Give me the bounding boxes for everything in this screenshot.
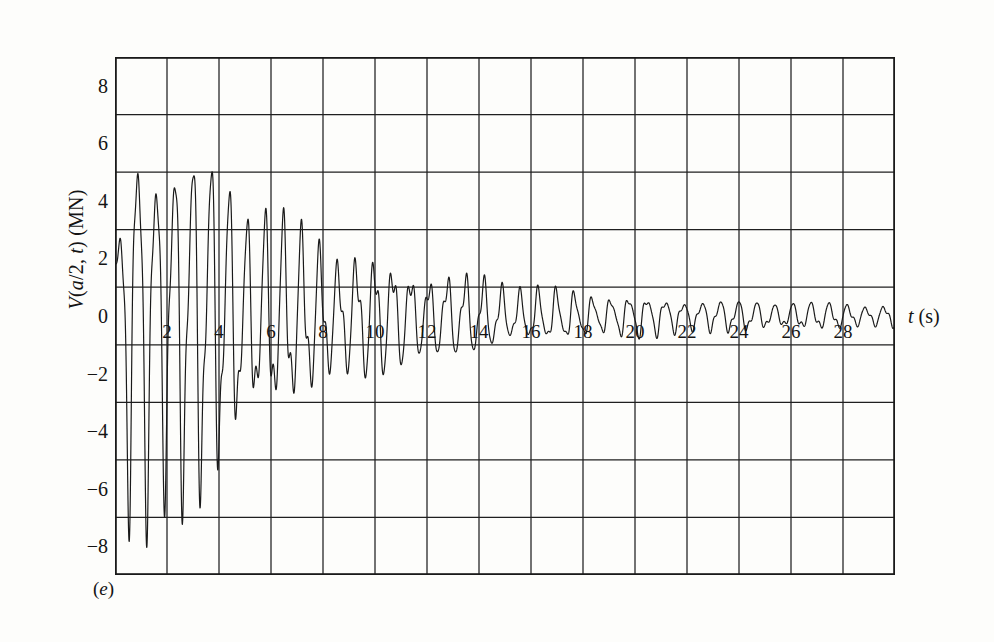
y-axis-title-t: t (65, 248, 87, 254)
y-axis-title-v: V (65, 297, 87, 309)
y-axis-tick-label: −2 (64, 364, 108, 384)
y-axis-title-a: a (65, 280, 87, 290)
figure-caption: (e) (93, 578, 114, 600)
figure-caption-letter: e (99, 578, 107, 599)
plot-svg (115, 57, 895, 575)
x-axis-title-t: t (908, 305, 914, 327)
y-axis-tick-label: 8 (64, 76, 108, 96)
grid-lines (115, 57, 895, 575)
figure-root: 86420−2−4−6−8 V(a/2, t) (MN) 24681012141… (0, 0, 994, 642)
y-axis-tick-label: −6 (64, 479, 108, 499)
y-axis-tick-label: 6 (64, 133, 108, 153)
x-axis-title: t (s) (908, 305, 940, 328)
y-axis-title: V(a/2, t) (MN) (65, 160, 88, 340)
y-axis-tick-label: −8 (64, 536, 108, 556)
plot-area (115, 57, 895, 575)
figure-caption-close: ) (108, 578, 114, 599)
waveform-line (115, 172, 895, 548)
y-axis-tick-label: −4 (64, 421, 108, 441)
